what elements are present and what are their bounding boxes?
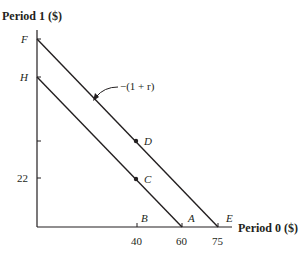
point-c-marker	[134, 177, 138, 181]
budget-line-diagram: Period 1 ($) Period 0 ($) F H 22 40 60 7…	[0, 0, 305, 259]
label-h: H	[19, 71, 29, 83]
label-a: A	[187, 212, 195, 224]
label-f: F	[20, 33, 28, 45]
label-e: E	[225, 212, 233, 224]
label-d: D	[143, 135, 152, 147]
label-75: 75	[212, 235, 224, 247]
outer-budget-line	[37, 39, 218, 227]
point-d-marker	[134, 139, 138, 143]
inner-budget-line	[37, 77, 182, 227]
label-22: 22	[17, 172, 28, 184]
label-60: 60	[176, 235, 188, 247]
slope-label: −(1 + r)	[120, 80, 155, 93]
slope-arrow	[96, 87, 118, 97]
label-c: C	[144, 173, 152, 185]
y-axis-title: Period 1 ($)	[2, 9, 62, 23]
label-b: B	[141, 212, 148, 224]
x-axis-title: Period 0 ($)	[238, 221, 298, 235]
label-40: 40	[131, 235, 143, 247]
